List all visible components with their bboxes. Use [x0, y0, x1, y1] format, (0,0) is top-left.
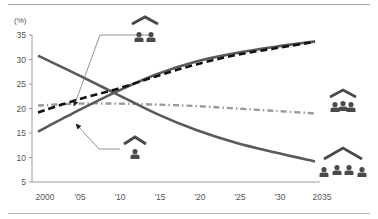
y-tick-label: 25 — [17, 79, 27, 89]
line-chart: (%) 51015202530352000'05'10'15'20'25'302… — [0, 0, 378, 219]
x-tick-label: 2035 — [313, 192, 332, 202]
series-line-dash-dot — [38, 103, 315, 113]
x-tick-label: '05 — [74, 192, 85, 202]
annotation-arrow-couple — [74, 35, 150, 106]
house-two-people-icon — [132, 17, 158, 42]
x-tick-label: '10 — [114, 192, 125, 202]
series-layer — [38, 41, 315, 161]
y-tick-label: 20 — [17, 104, 27, 114]
house-three-people-icon — [330, 90, 356, 112]
x-tick-label: '30 — [274, 192, 285, 202]
y-tick-label: 5 — [21, 177, 26, 187]
house-one-person-icon — [124, 137, 146, 159]
y-tick-label: 10 — [17, 153, 27, 163]
house-four-people-icon — [320, 148, 367, 177]
y-unit-label: (%) — [14, 16, 27, 25]
x-tick-label: '20 — [194, 192, 205, 202]
y-tick-label: 35 — [17, 30, 27, 40]
y-tick-label: 15 — [17, 128, 27, 138]
x-tick-label: '25 — [234, 192, 245, 202]
axes: 51015202530352000'05'10'15'20'25'302035 — [17, 30, 332, 202]
household-composition-chart: (%) 51015202530352000'05'10'15'20'25'302… — [0, 0, 378, 219]
y-tick-label: 30 — [17, 55, 27, 65]
x-tick-label: '15 — [154, 192, 165, 202]
x-tick-label: 2000 — [36, 192, 55, 202]
annotation-arrow-single — [76, 124, 120, 149]
series-line-dashed — [38, 42, 315, 113]
series-line-solid — [38, 41, 315, 131]
